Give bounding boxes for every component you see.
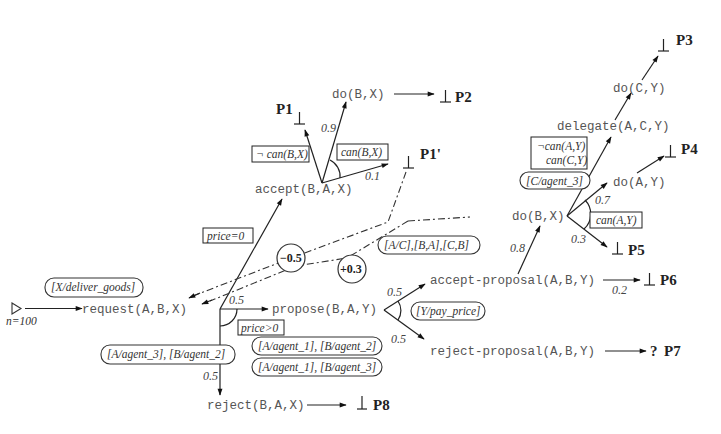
svg-text:[A/C],[B,A],[C,B]: [A/C],[B,A],[C,B]: [384, 239, 469, 252]
node-reject: reject(B,A,X): [207, 399, 305, 413]
svg-text:P7: P7: [664, 343, 681, 359]
node-reject-proposal: reject-proposal(A,B,Y): [430, 345, 595, 359]
node-delegate: delegate(A,C,Y): [557, 120, 670, 134]
feedback-positive-tail: [408, 217, 470, 221]
outcome-p4: P4: [665, 141, 698, 157]
condition-can-ay: can(A,Y): [590, 212, 642, 228]
svg-text:[C/agent_3]: [C/agent_3]: [526, 175, 583, 188]
binding-agents-3-2: [A/agent_3], [B/agent_2]: [101, 345, 235, 364]
node-do-ay: do(A,Y): [613, 176, 666, 190]
condition-not-can-bx: ¬ can(B,X): [252, 146, 309, 162]
svg-text:can(A,Y): can(A,Y): [596, 214, 637, 227]
svg-text:−0.5: −0.5: [280, 251, 302, 265]
prob-do-ay: 0.7: [595, 193, 611, 207]
svg-text:price=0: price=0: [206, 230, 244, 243]
svg-text:[A/agent_3], [B/agent_2]: [A/agent_3], [B/agent_2]: [107, 348, 225, 361]
prob-accept-do: 0.9: [321, 121, 336, 135]
condition-can-bx: can(B,X): [337, 144, 388, 160]
binding-c-agent3: [C/agent_3]: [520, 172, 590, 189]
svg-text:[X/deliver_goods]: [X/deliver_goods]: [51, 281, 135, 294]
start-count-label: n=100: [6, 315, 37, 327]
condition-not-can-ay-can-cy: ¬can(A,Y) can(C,Y): [531, 137, 587, 169]
svg-text:P8: P8: [373, 397, 390, 413]
svg-text:price>0: price>0: [240, 322, 278, 335]
feedback-badge-negative: −0.5: [277, 244, 305, 272]
edge-docy-p3: [642, 56, 658, 80]
binding-swap-roles: [A/C],[B,A],[C,B]: [378, 236, 480, 254]
outcome-p5: P5: [612, 242, 645, 258]
svg-text:[Y/pay_price]: [Y/pay_price]: [416, 305, 481, 318]
prob-propose-accept: 0.5: [387, 285, 402, 299]
svg-text:?: ?: [650, 343, 658, 359]
outcome-p2: P2: [440, 89, 472, 105]
svg-text:can(C,Y): can(C,Y): [546, 154, 587, 167]
svg-text:P1': P1': [420, 146, 441, 162]
svg-text:[A/agent_1], [B/agent_3]: [A/agent_1], [B/agent_3]: [258, 361, 376, 374]
prob-request-reject: 0.5: [203, 369, 218, 383]
outcome-p1: P1: [276, 101, 305, 124]
binding-agents-1-2: [A/agent_1], [B/agent_2]: [252, 337, 382, 355]
start-node: n=100: [6, 303, 82, 327]
node-do-bx-right: do(B,X): [512, 210, 565, 224]
branch-arc: [220, 309, 237, 326]
protocol-diagram: n=100 [X/deliver_goods] request(A,B,X) 0…: [0, 0, 721, 434]
binding-deliver-goods: [X/deliver_goods]: [45, 278, 143, 297]
feedback-pos-arrowhead: [202, 300, 212, 304]
edge-doay-p4: [637, 156, 664, 173]
svg-text:+0.3: +0.3: [340, 262, 362, 276]
svg-text:can(B,X): can(B,X): [341, 146, 382, 159]
prob-ap-do: 0.8: [510, 241, 525, 255]
feedback-badge-positive: +0.3: [338, 255, 366, 283]
outcome-p3: P3: [658, 32, 693, 51]
start-triangle-icon: [12, 303, 21, 314]
branch-arc-accept: [330, 160, 340, 178]
condition-price-gt-zero: price>0: [238, 320, 284, 335]
node-request: request(A,B,X): [82, 303, 187, 317]
node-propose: propose(B,A,Y): [272, 303, 377, 317]
svg-text:¬can(A,Y): ¬can(A,Y): [537, 140, 585, 153]
prob-do-p5: 0.3: [571, 232, 586, 246]
node-accept-proposal: accept-proposal(A,B,Y): [430, 274, 595, 288]
node-accept: accept(B,A,X): [255, 183, 353, 197]
binding-agents-1-3: [A/agent_1], [B/agent_3]: [252, 358, 382, 376]
prob-ap-p6: 0.2: [612, 283, 627, 297]
svg-text:[A/agent_1], [B/agent_2]: [A/agent_1], [B/agent_2]: [258, 340, 376, 353]
svg-text:P2: P2: [455, 89, 472, 105]
svg-text:¬ can(B,X): ¬ can(B,X): [256, 148, 308, 161]
svg-text:P4: P4: [681, 141, 698, 157]
outcome-p6: P6: [644, 272, 677, 288]
svg-text:P3: P3: [676, 32, 693, 48]
node-do-bx-top: do(B,X): [332, 88, 385, 102]
prob-accept-p1prime: 0.1: [365, 169, 380, 183]
node-do-cy: do(C,Y): [613, 82, 666, 96]
binding-pay-price: [Y/pay_price]: [411, 302, 485, 320]
prob-request-propose: 0.5: [229, 293, 244, 307]
feedback-neg-arrowhead: [189, 293, 200, 298]
prob-propose-reject: 0.5: [391, 332, 406, 346]
svg-text:P6: P6: [660, 272, 677, 288]
condition-price-zero: price=0: [203, 228, 253, 243]
outcome-p7: ? P7: [650, 343, 681, 359]
edge-accept-do: [322, 102, 346, 183]
edge-delegate-docy: [615, 93, 631, 120]
branch-arc-propose: [398, 301, 401, 320]
outcome-p1prime: P1': [403, 146, 441, 168]
outcome-p8: P8: [357, 396, 390, 413]
svg-text:P5: P5: [628, 242, 645, 258]
svg-text:P1: P1: [276, 101, 293, 117]
